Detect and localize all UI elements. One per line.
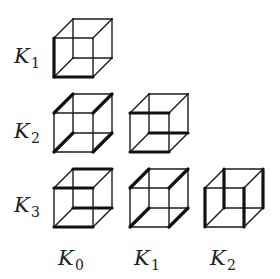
cube-grid-diagram: K 1 K 2 K 3 K 0 K 1 K 2 (0, 0, 280, 279)
row-label-k3: K 3 (13, 193, 40, 220)
cube-edge-bold (130, 169, 149, 188)
cube-r0-c0 (54, 19, 112, 77)
cube-edge (130, 133, 149, 152)
cube-r2-c2 (205, 169, 263, 227)
row-label-sub: 2 (31, 130, 40, 146)
cube-edge (130, 94, 149, 113)
row-label-base: K (13, 193, 31, 217)
cube-edge (169, 133, 188, 152)
cube-r1-c1 (130, 94, 188, 152)
cube-edge (93, 208, 112, 227)
cube-edge (93, 169, 112, 188)
cube-edge (54, 58, 73, 77)
cube-edge-bold (54, 94, 73, 113)
col-label-base: K (209, 246, 227, 270)
col-label-sub: 2 (227, 257, 236, 273)
col-label-base: K (133, 246, 151, 270)
cube-edge-bold (93, 133, 112, 152)
cube-edge-bold (54, 133, 73, 152)
cube-edge (54, 208, 73, 227)
col-label-k0: K 0 (57, 246, 84, 273)
cube-edge (93, 58, 112, 77)
cube-r2-c1 (130, 169, 188, 227)
col-label-k1: K 1 (133, 246, 160, 273)
row-label-k2: K 2 (13, 119, 40, 146)
col-label-base: K (57, 246, 75, 270)
cube-edge (54, 19, 73, 38)
cube-edge (244, 169, 263, 188)
cube-edge-bold (169, 169, 188, 188)
cube-edge (169, 94, 188, 113)
row-label-sub: 1 (31, 55, 40, 71)
col-label-k2: K 2 (209, 246, 236, 273)
row-label-base: K (13, 44, 31, 68)
row-label-sub: 3 (31, 204, 40, 220)
cube-edge-bold (93, 94, 112, 113)
cube-edge (205, 208, 224, 227)
cubes-group (54, 19, 263, 227)
cube-r1-c0 (54, 94, 112, 152)
cube-edge-bold (130, 208, 149, 227)
col-label-sub: 0 (75, 257, 84, 273)
cube-edge-bold (169, 208, 188, 227)
cube-edge (54, 169, 73, 188)
cube-edge (205, 169, 224, 188)
cube-r2-c0 (54, 169, 112, 227)
row-label-k1: K 1 (13, 44, 40, 71)
cube-edge (93, 19, 112, 38)
cube-edge (244, 208, 263, 227)
row-label-base: K (13, 119, 31, 143)
col-label-sub: 1 (151, 257, 160, 273)
